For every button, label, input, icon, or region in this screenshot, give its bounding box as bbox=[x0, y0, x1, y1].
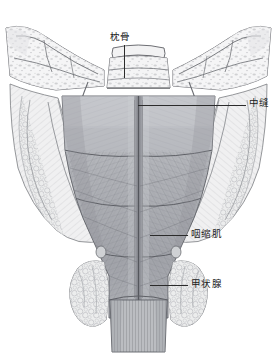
occipital-bone bbox=[105, 45, 173, 92]
leader-line-median-raphe bbox=[138, 105, 246, 106]
leader-line-occipital-bone bbox=[124, 45, 125, 78]
greater-horn-landmark-right bbox=[171, 246, 181, 258]
label-occipital-bone: 枕骨 bbox=[110, 32, 131, 42]
label-median-raphe: 中缝 bbox=[249, 98, 270, 108]
label-thyroid-gland: 甲状腺 bbox=[191, 279, 222, 289]
leader-line-thyroid-gland bbox=[150, 285, 188, 286]
anatomy-illustration bbox=[0, 0, 277, 360]
esophagus bbox=[108, 296, 170, 354]
greater-horn-landmark-left bbox=[96, 246, 106, 258]
leader-line-pharyngeal-constrictor bbox=[150, 235, 188, 236]
median-raphe bbox=[134, 96, 143, 306]
label-pharyngeal-constrictor: 咽缩肌 bbox=[191, 229, 222, 239]
